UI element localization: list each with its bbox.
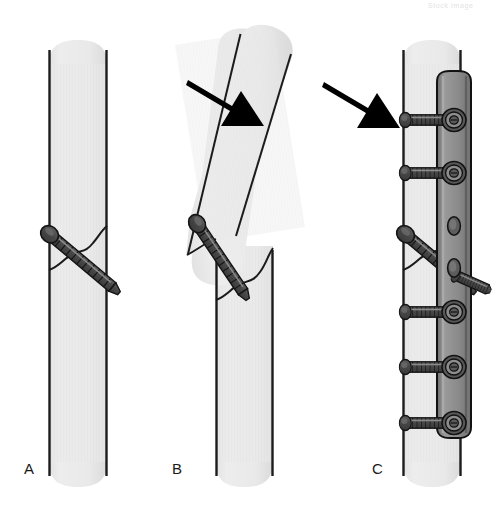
plate-hole-empty-1 — [448, 217, 461, 235]
panel-b: B — [149, 23, 315, 487]
panel-c: C — [322, 40, 494, 487]
force-arrow-right — [322, 82, 400, 128]
panel-label-b: B — [172, 460, 182, 477]
panel-label-a: A — [24, 460, 34, 477]
plate-screw-head-6 — [442, 412, 466, 435]
figure-root: A — [0, 0, 504, 514]
plate-screw-head-1 — [442, 109, 466, 132]
panel-a: A — [24, 40, 124, 487]
plate-screw-head-2 — [442, 162, 466, 185]
surgical-technique-diagram: A — [0, 0, 504, 514]
watermark-text: Stock Image — [428, 2, 474, 10]
plate-screw-head-4 — [442, 301, 466, 324]
plate-hole-empty-2 — [448, 259, 461, 277]
plate-screw-head-5 — [442, 356, 466, 379]
panel-label-c: C — [372, 460, 383, 477]
